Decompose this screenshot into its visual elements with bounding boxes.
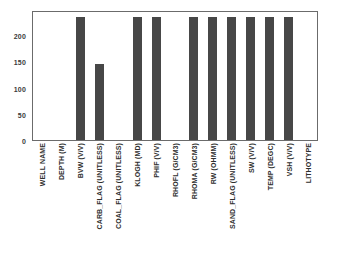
x-axis-tick-label: RHOMA (G/CM3) bbox=[191, 143, 198, 199]
x-axis-label-slot: WELL NAME bbox=[32, 143, 51, 268]
bar-slot bbox=[71, 12, 90, 140]
bar bbox=[189, 17, 198, 140]
x-axis-label-slot: RHOFL (G/CM3) bbox=[165, 143, 184, 268]
bar-slot bbox=[260, 12, 279, 140]
bar-slot bbox=[52, 12, 71, 140]
x-axis-label-slot: COAL_FLAG (UNITLESS) bbox=[108, 143, 127, 268]
x-axis-tick-label: LITHOTYPE bbox=[305, 143, 312, 183]
bar bbox=[133, 17, 142, 140]
y-axis-tick-label: 50 bbox=[18, 111, 26, 118]
bar-slot bbox=[241, 12, 260, 140]
bar-slot bbox=[109, 12, 128, 140]
x-axis-tick-label: BVW (V/V) bbox=[76, 143, 83, 178]
x-axis-label-slot: RHOMA (G/CM3) bbox=[185, 143, 204, 268]
x-axis-label-slot: BVW (V/V) bbox=[70, 143, 89, 268]
bar bbox=[208, 17, 217, 140]
bar-slot bbox=[203, 12, 222, 140]
x-axis-label-slot: TEMP (DEGC) bbox=[261, 143, 280, 268]
y-axis-tick-label: 0 bbox=[22, 138, 26, 145]
x-axis-label-slot: CARB_FLAG (UNITLESS) bbox=[89, 143, 108, 268]
y-axis-tick-label: 150 bbox=[14, 59, 26, 66]
y-axis: 050100150200 bbox=[0, 11, 29, 141]
bar bbox=[227, 17, 236, 140]
x-axis-tick-label: VSH (V/V) bbox=[286, 143, 293, 176]
y-axis-tick-label: 200 bbox=[14, 33, 26, 40]
x-axis-label-slot: SW (V/V) bbox=[242, 143, 261, 268]
bar bbox=[95, 64, 104, 140]
x-axis-label-slot: SAND_FLAG (UNITLESS) bbox=[223, 143, 242, 268]
bar bbox=[76, 17, 85, 140]
x-axis-tick-label: RHOFL (G/CM3) bbox=[171, 143, 178, 197]
x-axis-tick-label: PHIF (V/V) bbox=[152, 143, 159, 178]
bar-slot bbox=[90, 12, 109, 140]
x-axis-label-slot: KLOGH (MD) bbox=[127, 143, 146, 268]
x-axis-tick-label: KLOGH (MD) bbox=[133, 143, 140, 187]
bar-slot bbox=[147, 12, 166, 140]
bar bbox=[284, 17, 293, 140]
bar-slot bbox=[298, 12, 317, 140]
bar-slot bbox=[166, 12, 185, 140]
x-axis-tick-label: SAND_FLAG (UNITLESS) bbox=[229, 143, 236, 229]
bar-slot bbox=[185, 12, 204, 140]
x-axis-label-slot: DEPTH (M) bbox=[51, 143, 70, 268]
bar-slot bbox=[33, 12, 52, 140]
bar-slot bbox=[222, 12, 241, 140]
x-axis-tick-label: WELL NAME bbox=[38, 143, 45, 186]
x-axis-tick-label: RW (OHMM) bbox=[210, 143, 217, 184]
bar bbox=[246, 17, 255, 140]
x-axis-label-slot: PHIF (V/V) bbox=[146, 143, 165, 268]
x-axis: WELL NAMEDEPTH (M)BVW (V/V)CARB_FLAG (UN… bbox=[32, 143, 318, 268]
x-axis-tick-label: TEMP (DEGC) bbox=[267, 143, 274, 190]
x-axis-tick-label: DEPTH (M) bbox=[57, 143, 64, 180]
x-axis-tick-label: SW (V/V) bbox=[248, 143, 255, 173]
x-axis-tick-label: CARB_FLAG (UNITLESS) bbox=[95, 143, 102, 229]
x-axis-label-slot: RW (OHMM) bbox=[204, 143, 223, 268]
x-axis-label-slot: VSH (V/V) bbox=[280, 143, 299, 268]
x-axis-label-slot: LITHOTYPE bbox=[299, 143, 318, 268]
x-axis-tick-label: COAL_FLAG (UNITLESS) bbox=[114, 143, 121, 229]
y-axis-tick-label: 100 bbox=[14, 85, 26, 92]
bar-chart: 050100150200 WELL NAMEDEPTH (M)BVW (V/V)… bbox=[0, 0, 343, 271]
plot-frame bbox=[32, 11, 318, 141]
bar bbox=[265, 17, 274, 140]
bar-slot bbox=[279, 12, 298, 140]
bar-slot bbox=[128, 12, 147, 140]
plot-area bbox=[33, 12, 317, 140]
bar bbox=[152, 17, 161, 140]
